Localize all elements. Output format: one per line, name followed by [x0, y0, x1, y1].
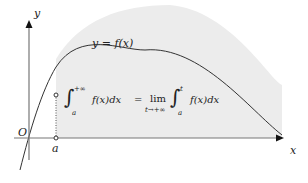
rhs-upper-limit: t [180, 85, 183, 93]
rhs-lower-limit: a [178, 109, 182, 117]
y-axis-arrow-icon [26, 20, 33, 28]
integral-sign-icon: ∫ [64, 85, 74, 109]
point-a [54, 136, 58, 140]
x-axis-label: x [290, 144, 296, 157]
curve-label: y = f(x) [92, 37, 133, 50]
integral-formula: ∫ +∞ a f(x)dx = lim t→+∞ ∫ t a f(x)dx [62, 85, 252, 117]
lhs-lower-limit: a [72, 109, 76, 117]
y-axis-label: y [34, 7, 40, 20]
point-a-label: a [52, 142, 59, 155]
lim-subscript: t→+∞ [145, 106, 165, 114]
origin-label: O [18, 126, 27, 139]
lhs-upper-limit: +∞ [74, 85, 86, 93]
equals-sign: = [134, 94, 142, 105]
lhs-integrand: f(x)dx [92, 94, 121, 105]
rhs-integrand: f(x)dx [190, 94, 219, 105]
point-on-curve [54, 93, 58, 97]
integral-sign-icon: ∫ [170, 85, 180, 109]
lim-text: lim [150, 93, 166, 104]
shaded-area [56, 5, 282, 138]
